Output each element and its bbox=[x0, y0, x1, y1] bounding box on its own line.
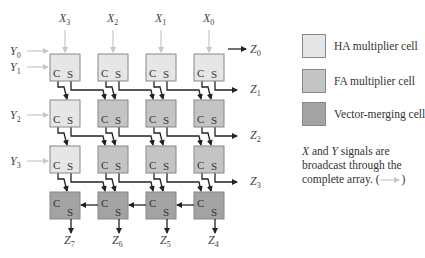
carry-label: C bbox=[149, 159, 156, 171]
cell-ha: CS bbox=[50, 146, 80, 173]
legend-item-vm: Vector-merging cell bbox=[302, 102, 425, 126]
sum-output-wire bbox=[215, 81, 237, 90]
sum-wire bbox=[167, 127, 201, 145]
sum-label: S bbox=[211, 114, 217, 126]
output-label-z1: Z1 bbox=[250, 82, 261, 98]
output-label-z5: Z5 bbox=[160, 233, 171, 249]
cell-ha: CS bbox=[50, 100, 80, 127]
sum-label: S bbox=[211, 160, 217, 172]
carry-label: C bbox=[197, 197, 204, 209]
sum-wire bbox=[71, 81, 105, 99]
carry-wire bbox=[154, 81, 163, 99]
sum-label: S bbox=[115, 206, 121, 218]
input-label-y2: Y2 bbox=[10, 108, 21, 124]
cell-ha: CS bbox=[50, 54, 80, 81]
sum-wire bbox=[71, 173, 105, 191]
sum-wire bbox=[167, 81, 201, 99]
legend-item-ha: HA multiplier cell bbox=[302, 34, 418, 58]
broadcast-note: X and Y signals are broadcast through th… bbox=[302, 144, 424, 186]
sum-wire bbox=[119, 127, 153, 145]
sum-label: S bbox=[211, 68, 217, 80]
sum-wire bbox=[119, 81, 153, 99]
sum-label: S bbox=[163, 68, 169, 80]
carry-label: C bbox=[197, 67, 204, 79]
sum-wire bbox=[71, 127, 105, 145]
carry-wire bbox=[58, 173, 67, 191]
output-label-z7: Z7 bbox=[64, 233, 75, 249]
sum-label: S bbox=[67, 206, 73, 218]
carry-wire bbox=[154, 127, 163, 145]
sum-output-wire bbox=[215, 127, 237, 136]
cell-fa: CS bbox=[146, 146, 176, 173]
output-label-z0: Z0 bbox=[250, 42, 261, 58]
input-label-x3: X3 bbox=[58, 11, 70, 27]
cell-ha: CS bbox=[194, 54, 224, 81]
carry-label: C bbox=[53, 113, 60, 125]
output-label-z2: Z2 bbox=[250, 128, 261, 144]
note-close: ) bbox=[401, 173, 405, 185]
carry-label: C bbox=[197, 159, 204, 171]
sum-label: S bbox=[163, 114, 169, 126]
broadcast-arrow-icon bbox=[379, 176, 401, 184]
cell-vm: CS bbox=[98, 192, 128, 219]
cell-ha: CS bbox=[98, 54, 128, 81]
carry-wire bbox=[58, 127, 67, 145]
carry-wire bbox=[202, 81, 211, 99]
carry-label: C bbox=[101, 197, 108, 209]
input-label-y3: Y3 bbox=[10, 154, 21, 170]
output-label-z4: Z4 bbox=[208, 233, 219, 249]
note-x: X bbox=[302, 145, 309, 157]
carry-wire bbox=[154, 173, 163, 191]
cell-vm: CS bbox=[146, 192, 176, 219]
carry-label: C bbox=[197, 113, 204, 125]
sum-label: S bbox=[67, 68, 73, 80]
sum-label: S bbox=[67, 114, 73, 126]
cell-ha: CS bbox=[146, 54, 176, 81]
input-label-y0: Y0 bbox=[10, 44, 21, 60]
legend-label-fa: FA multiplier cell bbox=[334, 75, 415, 87]
cell-fa: CS bbox=[194, 146, 224, 173]
sum-label: S bbox=[67, 160, 73, 172]
input-label-x1: X1 bbox=[154, 11, 166, 27]
carry-label: C bbox=[149, 113, 156, 125]
sum-wire bbox=[119, 173, 153, 191]
sum-output-wire bbox=[215, 173, 237, 182]
carry-wire bbox=[106, 173, 115, 191]
sum-wire bbox=[167, 173, 201, 191]
sum-label: S bbox=[211, 206, 217, 218]
fa-swatch bbox=[302, 69, 326, 93]
carry-label: C bbox=[101, 159, 108, 171]
carry-label: C bbox=[101, 113, 108, 125]
legend-item-fa: FA multiplier cell bbox=[302, 69, 415, 93]
cell-fa: CS bbox=[146, 100, 176, 127]
carry-wire bbox=[202, 127, 211, 145]
carry-wire bbox=[106, 81, 115, 99]
sum-label: S bbox=[115, 160, 121, 172]
carry-label: C bbox=[53, 67, 60, 79]
cell-vm: CS bbox=[194, 192, 224, 219]
vm-swatch bbox=[302, 102, 326, 126]
output-label-z3: Z3 bbox=[250, 174, 261, 190]
input-label-x0: X0 bbox=[202, 11, 214, 27]
sum-label: S bbox=[163, 160, 169, 172]
carry-label: C bbox=[53, 159, 60, 171]
carry-label: C bbox=[149, 197, 156, 209]
carry-wire bbox=[58, 81, 67, 99]
cell-fa: CS bbox=[194, 100, 224, 127]
carry-wire bbox=[106, 127, 115, 145]
ha-swatch bbox=[302, 34, 326, 58]
carry-label: C bbox=[149, 67, 156, 79]
sum-label: S bbox=[115, 114, 121, 126]
carry-label: C bbox=[53, 197, 60, 209]
output-label-z6: Z6 bbox=[112, 233, 123, 249]
note-and: and bbox=[309, 145, 331, 157]
sum-label: S bbox=[115, 68, 121, 80]
cell-vm: CS bbox=[50, 192, 80, 219]
carry-wire bbox=[202, 173, 211, 191]
cell-fa: CS bbox=[98, 146, 128, 173]
carry-label: C bbox=[101, 67, 108, 79]
legend-label-vm: Vector-merging cell bbox=[334, 108, 425, 120]
sum-label: S bbox=[163, 206, 169, 218]
legend-label-ha: HA multiplier cell bbox=[334, 40, 418, 52]
input-label-y1: Y1 bbox=[10, 60, 21, 76]
